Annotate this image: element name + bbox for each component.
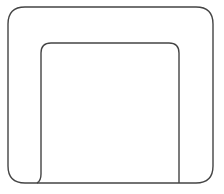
outer-frame [8,7,213,183]
inner-seat [37,43,179,183]
armchair-drawing [0,0,224,194]
armchair-icon [0,0,224,194]
